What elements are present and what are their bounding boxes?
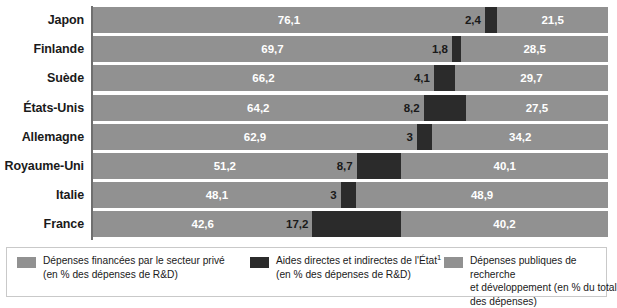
bar-row-country-label: Japon xyxy=(0,6,84,34)
bar-segment-state-aid xyxy=(434,65,455,91)
bar-row: France42,617,240,2 xyxy=(0,210,617,238)
bar-segment-state-aid xyxy=(312,211,401,237)
bar-row-country-label: France xyxy=(0,210,84,238)
bar-row-country-label: Suède xyxy=(0,64,84,92)
bar-value-state-aid: 8,7 xyxy=(337,153,357,179)
bar-track: 62,9334,2 xyxy=(93,124,608,150)
legend-footnote-marker: 1 xyxy=(437,253,441,262)
bar-row: Italie48,1348,9 xyxy=(0,181,617,209)
bar-value-state-aid: 4,1 xyxy=(414,65,434,91)
legend-label-state: Aides directes et indirectes de l'État1(… xyxy=(276,254,441,281)
bar-row: Allemagne62,9334,2 xyxy=(0,123,617,151)
bar-value-private: 48,1 xyxy=(206,182,228,208)
bar-row-country-label: Royaume-Uni xyxy=(0,152,84,180)
legend-label-private: Dépenses financées par le secteur privé(… xyxy=(43,254,225,281)
bar-value-state-aid: 17,2 xyxy=(286,211,312,237)
bar-segment-state-aid xyxy=(424,95,466,121)
bar-value-public: 28,5 xyxy=(523,36,545,62)
bar-row: États-Unis64,28,227,5 xyxy=(0,94,617,122)
bar-value-private: 69,7 xyxy=(261,36,283,62)
bar-value-private: 51,2 xyxy=(214,153,236,179)
bar-row-country-label: Finlande xyxy=(0,35,84,63)
bar-value-public: 29,7 xyxy=(520,65,542,91)
legend-swatch-private-icon xyxy=(17,257,36,268)
bar-track: 51,28,740,1 xyxy=(93,153,608,179)
bar-value-private: 42,6 xyxy=(191,211,213,237)
bar-value-private: 62,9 xyxy=(244,124,266,150)
bar-value-public: 21,5 xyxy=(541,7,563,33)
bar-track: 69,71,828,5 xyxy=(93,36,608,62)
bar-value-public: 34,2 xyxy=(509,124,531,150)
bar-row-country-label: États-Unis xyxy=(0,94,84,122)
bar-track: 48,1348,9 xyxy=(93,182,608,208)
bar-row: Suède66,24,129,7 xyxy=(0,64,617,92)
bar-segment-state-aid xyxy=(485,7,497,33)
bar-segment-state-aid xyxy=(452,36,461,62)
bar-segment-state-aid xyxy=(357,153,402,179)
bar-value-private: 64,2 xyxy=(247,95,269,121)
bar-value-state-aid: 1,8 xyxy=(432,36,452,62)
legend-swatch-public-icon xyxy=(444,257,463,268)
bar-track: 66,24,129,7 xyxy=(93,65,608,91)
bar-row: Royaume-Uni51,28,740,1 xyxy=(0,152,617,180)
bar-segment-state-aid xyxy=(341,182,356,208)
bar-segment-state-aid xyxy=(417,124,432,150)
bar-value-private: 76,1 xyxy=(278,7,300,33)
bar-track: 76,12,421,5 xyxy=(93,7,608,33)
bar-value-public: 40,2 xyxy=(493,211,515,237)
bar-value-public: 48,9 xyxy=(471,182,493,208)
bar-track: 42,617,240,2 xyxy=(93,211,608,237)
bar-row-country-label: Allemagne xyxy=(0,123,84,151)
legend-swatch-state-icon xyxy=(250,257,269,268)
bar-value-state-aid: 3 xyxy=(407,124,417,150)
bar-value-state-aid: 3 xyxy=(330,182,340,208)
legend-label-public: Dépenses publiques de rechercheet dévelo… xyxy=(470,254,617,308)
bar-track: 64,28,227,5 xyxy=(93,95,608,121)
bar-value-state-aid: 8,2 xyxy=(404,95,424,121)
bar-value-private: 66,2 xyxy=(252,65,274,91)
bar-row: Finlande69,71,828,5 xyxy=(0,35,617,63)
bar-value-public: 40,1 xyxy=(494,153,516,179)
bar-row: Japon76,12,421,5 xyxy=(0,6,617,34)
bar-value-public: 27,5 xyxy=(526,95,548,121)
bar-row-country-label: Italie xyxy=(0,181,84,209)
plot-area: Japon76,12,421,5Finlande69,71,828,5Suède… xyxy=(0,6,617,242)
bar-value-state-aid: 2,4 xyxy=(465,7,485,33)
chart-legend: Dépenses financées par le secteur privé(… xyxy=(6,247,607,297)
